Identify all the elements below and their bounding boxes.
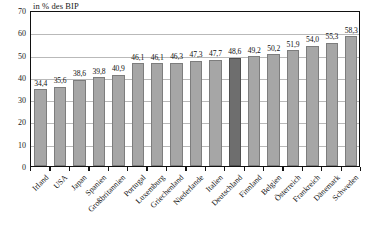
bar-value-label: 58,3 [345,26,358,35]
bar-value-label: 51,9 [287,40,300,49]
bar[interactable] [34,89,46,166]
x-axis-tick-mark [166,167,167,171]
y-axis-tick-label: 50 [0,51,26,60]
bar-value-label: 46,1 [131,53,144,62]
bar[interactable] [170,63,182,166]
x-axis-tick-mark [321,167,322,171]
bar[interactable] [306,46,318,166]
bar-slot: 34,4 [31,12,50,166]
bar-value-label: 47,3 [190,50,203,59]
bar-slot: 50,2 [264,12,283,166]
bar[interactable] [345,36,357,166]
y-axis-tick-label: 10 [0,140,26,149]
bar-value-label: 39,8 [92,67,105,76]
bar-value-label: 38,6 [73,69,86,78]
plot-area: 34,435,638,639,840,946,146,146,347,347,7… [30,11,360,167]
bar[interactable] [151,63,163,166]
bar-series: 34,435,638,639,840,946,146,146,347,347,7… [31,12,359,166]
bar-slot: 54,0 [303,12,322,166]
y-axis-tick-label: 70 [0,7,26,16]
bar-value-label: 34,4 [34,79,47,88]
bar-slot: 47,7 [206,12,225,166]
bar[interactable] [229,58,241,166]
bar-value-label: 54,0 [306,35,319,44]
x-axis-tick-mark [88,167,89,171]
bar-slot: 51,9 [283,12,302,166]
bar[interactable] [209,60,221,166]
bar-slot: 48,6 [225,12,244,166]
bar-slot: 46,1 [128,12,147,166]
bar-slot: 49,2 [245,12,264,166]
x-axis-tick-mark [108,167,109,171]
x-axis-tick-mark [205,167,206,171]
bar-slot: 40,9 [109,12,128,166]
bar-value-label: 35,6 [54,76,67,85]
x-axis-label: USA [52,173,70,191]
bar-slot: 38,6 [70,12,89,166]
bar-slot: 39,8 [89,12,108,166]
bar[interactable] [287,50,299,166]
x-axis-tick-mark [224,167,225,171]
bar-slot: 47,3 [186,12,205,166]
x-axis-tick-mark [127,167,128,171]
bar-slot: 46,3 [167,12,186,166]
bar[interactable] [93,77,105,166]
bar[interactable] [267,54,279,166]
bar-slot: 58,3 [342,12,361,166]
x-axis-tick-mark [244,167,245,171]
x-axis-tick-mark [360,167,361,171]
y-axis-tick-label: 0 [0,163,26,172]
bar-value-label: 48,6 [228,47,241,56]
x-axis-tick-mark [341,167,342,171]
bar-chart: in % des BIP 34,435,638,639,840,946,146,… [0,0,376,245]
chart-title: in % des BIP [33,1,79,11]
x-axis-tick-mark [263,167,264,171]
bar-slot: 46,1 [147,12,166,166]
y-axis-tick-label: 60 [0,29,26,38]
bar[interactable] [54,87,66,166]
bar[interactable] [112,75,124,166]
bar[interactable] [132,63,144,166]
x-axis-label: Irland [30,173,50,193]
y-axis-tick-label: 20 [0,118,26,127]
bar-value-label: 46,3 [170,52,183,61]
bar-value-label: 40,9 [112,64,125,73]
bar-value-label: 55,3 [325,32,338,41]
bar-value-label: 49,2 [248,46,261,55]
bar[interactable] [326,43,338,166]
x-axis-tick-mark [185,167,186,171]
bar-value-label: 50,2 [267,44,280,53]
bar[interactable] [190,61,202,166]
x-axis-tick-mark [69,167,70,171]
y-axis-tick-label: 30 [0,96,26,105]
bar[interactable] [73,80,85,166]
x-axis-tick-mark [146,167,147,171]
bar[interactable] [248,56,260,166]
x-axis-tick-mark [49,167,50,171]
x-axis-tick-mark [282,167,283,171]
bar-slot: 55,3 [322,12,341,166]
y-axis-tick-label: 40 [0,73,26,82]
bar-value-label: 47,7 [209,49,222,58]
bar-slot: 35,6 [50,12,69,166]
x-axis-tick-mark [30,167,31,171]
x-axis-tick-mark [302,167,303,171]
bar-value-label: 46,1 [151,53,164,62]
